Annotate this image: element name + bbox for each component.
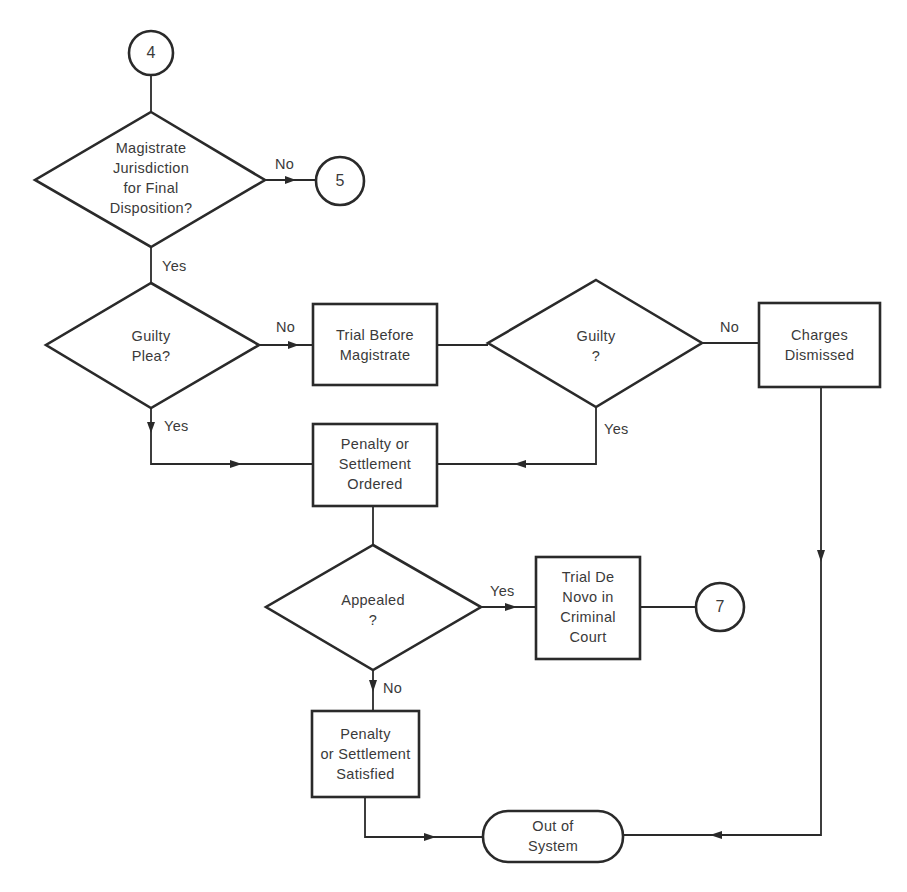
connector-label-4: 4 — [131, 43, 171, 63]
node-label-penalty-satisfied: Penalty or Settlement Satisfied — [305, 724, 426, 784]
node-label-charges-dismissed: Charges Dismissed — [759, 325, 880, 365]
edge-label-appealed-no: No — [383, 679, 402, 697]
node-label-penalty-ordered: Penalty or Settlement Ordered — [313, 434, 437, 494]
arrow-right-icon — [424, 833, 436, 841]
edge-label-appealed-yes: Yes — [490, 582, 515, 600]
edge-label-guilty-yes: Yes — [604, 420, 629, 438]
arrow-right-icon — [285, 176, 296, 184]
node-label-guilty: Guilty ? — [546, 326, 646, 366]
edge-label-jurisdiction-no: No — [275, 155, 294, 173]
edge-label-guilty-no: No — [720, 318, 739, 336]
node-label-trial-de-novo: Trial De Novo in Criminal Court — [536, 567, 640, 647]
node-label-out-of-system: Out of System — [483, 816, 623, 856]
arrow-down-icon — [147, 422, 155, 433]
edge-label-jurisdiction-yes: Yes — [162, 257, 187, 275]
arrow-down-icon — [817, 550, 825, 562]
arrowheads — [147, 176, 825, 841]
node-label-appealed: Appealed ? — [323, 590, 423, 630]
node-label-guilty-plea: Guilty Plea? — [101, 326, 201, 366]
node-label-trial-before-magistrate: Trial Before Magistrate — [313, 325, 437, 365]
arrow-right-icon — [230, 460, 242, 468]
arrow-left-icon — [514, 460, 526, 468]
edge-label-plea-yes: Yes — [164, 417, 189, 435]
arrow-right-icon — [288, 341, 299, 349]
connector-label-7: 7 — [700, 597, 740, 617]
arrow-down-icon — [369, 680, 377, 692]
connector-label-5: 5 — [320, 171, 360, 191]
node-label-jurisdiction: Magistrate Jurisdiction for Final Dispos… — [81, 138, 221, 218]
arrow-right-icon — [505, 603, 517, 611]
edge-label-plea-no: No — [276, 318, 295, 336]
arrow-left-icon — [710, 831, 722, 839]
